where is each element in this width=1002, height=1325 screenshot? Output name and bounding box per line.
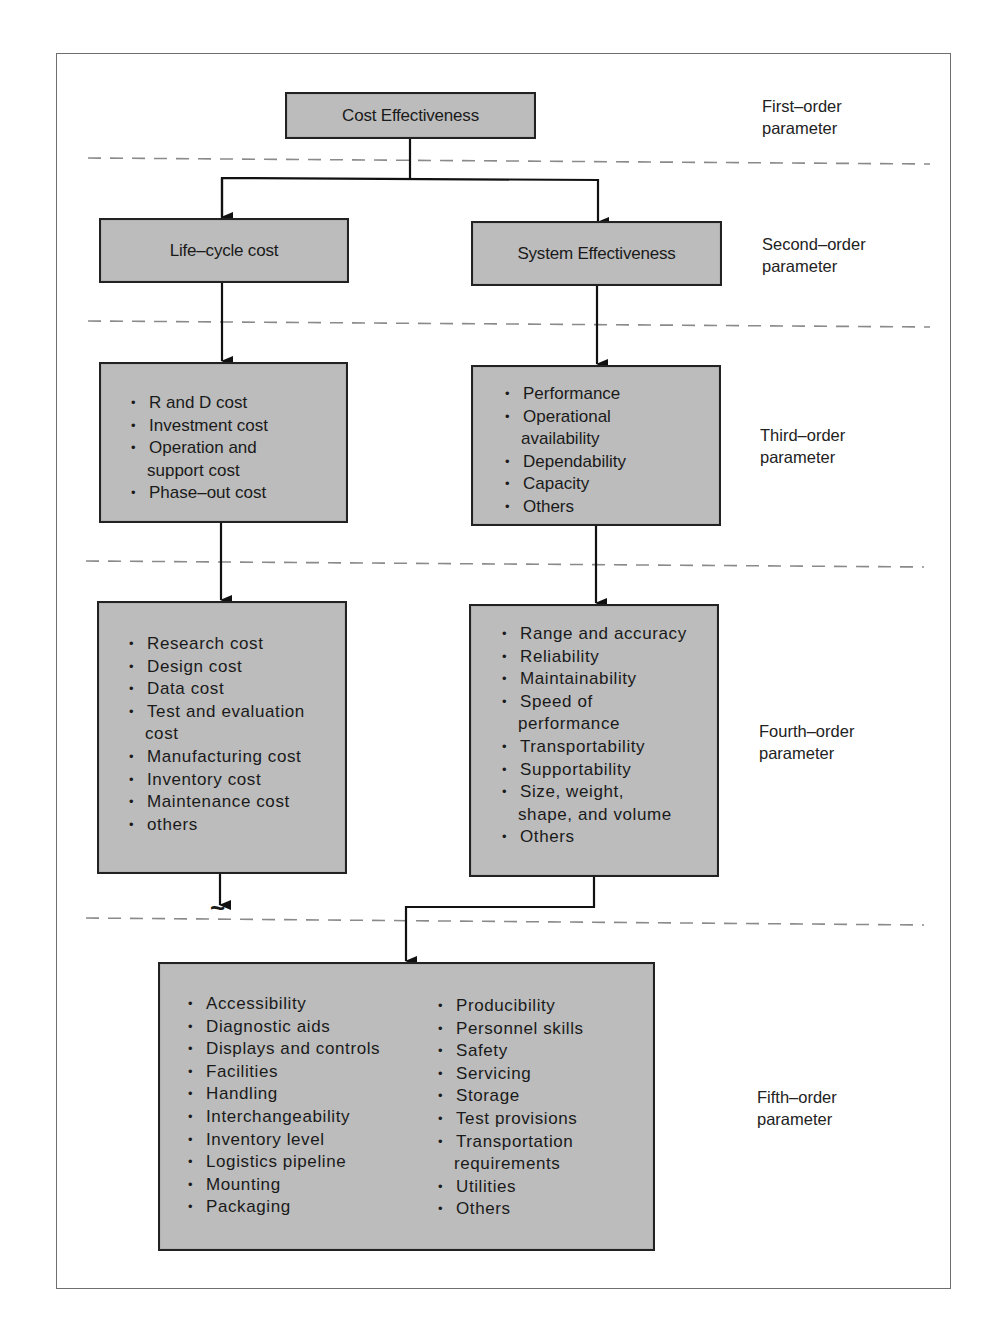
- list-item: Test provisions: [436, 1108, 584, 1131]
- list-item: Safety: [436, 1040, 584, 1063]
- box-third-order-effectiveness: Performance Operational availability Dep…: [471, 365, 721, 526]
- list-item: Design cost: [127, 656, 305, 679]
- box-title: Cost Effectiveness: [342, 106, 479, 126]
- list-item: R and D cost: [129, 392, 268, 415]
- list-item: Performance: [503, 383, 626, 406]
- box-fifth-order: Accessibility Diagnostic aids Displays a…: [158, 962, 655, 1251]
- list-item: Diagnostic aids: [186, 1016, 380, 1039]
- label-line: parameter: [762, 255, 866, 277]
- list-item: Data cost: [127, 678, 305, 701]
- list-item: Accessibility: [186, 993, 380, 1016]
- list-item: Facilities: [186, 1061, 380, 1084]
- list-item: Storage: [436, 1085, 584, 1108]
- list-item: Others: [436, 1198, 584, 1221]
- list-item: Transportation: [436, 1131, 584, 1154]
- list-item: Mounting: [186, 1174, 380, 1197]
- list-item-continued: shape, and volume: [500, 804, 687, 827]
- label-line: parameter: [760, 446, 845, 468]
- list-item: Personnel skills: [436, 1018, 584, 1041]
- list-item: Capacity: [503, 473, 626, 496]
- list-item-continued: availability: [503, 428, 626, 451]
- box-fourth-order-effectiveness: Range and accuracy Reliability Maintaina…: [469, 604, 719, 877]
- label-line: parameter: [759, 742, 854, 764]
- list-item: Logistics pipeline: [186, 1151, 380, 1174]
- box-title: Life–cycle cost: [170, 241, 279, 261]
- list-item: Others: [500, 826, 687, 849]
- list-item: Operational: [503, 406, 626, 429]
- box-title: System Effectiveness: [517, 244, 675, 264]
- list-item: Producibility: [436, 995, 584, 1018]
- list-item: Manufacturing cost: [127, 746, 305, 769]
- level-label-first: First–order parameter: [762, 95, 842, 139]
- bullet-list: Research cost Design cost Data cost Test…: [127, 633, 305, 836]
- list-item: Handling: [186, 1083, 380, 1106]
- label-line: Fifth–order: [757, 1086, 837, 1108]
- box-system-effectiveness: System Effectiveness: [471, 221, 722, 286]
- list-item-continued: cost: [127, 723, 305, 746]
- continuation-tilde: ~: [210, 895, 225, 921]
- list-item: Packaging: [186, 1196, 380, 1219]
- level-label-fourth: Fourth–order parameter: [759, 720, 854, 764]
- bullet-list: R and D cost Investment cost Operation a…: [129, 392, 268, 505]
- list-item: Displays and controls: [186, 1038, 380, 1061]
- list-item: Transportability: [500, 736, 687, 759]
- label-line: Third–order: [760, 424, 845, 446]
- bullet-list-col2: Producibility Personnel skills Safety Se…: [436, 995, 584, 1221]
- list-item: others: [127, 814, 305, 837]
- label-line: Second–order: [762, 233, 866, 255]
- bullet-list-col1: Accessibility Diagnostic aids Displays a…: [186, 993, 380, 1219]
- list-item: Investment cost: [129, 415, 268, 438]
- bullet-list: Range and accuracy Reliability Maintaina…: [500, 623, 687, 849]
- list-item: Phase–out cost: [129, 482, 268, 505]
- list-item: Operation and: [129, 437, 268, 460]
- list-item: Dependability: [503, 451, 626, 474]
- list-item: Supportability: [500, 759, 687, 782]
- list-item: Test and evaluation: [127, 701, 305, 724]
- list-item-continued: support cost: [129, 460, 268, 483]
- list-item: Inventory level: [186, 1129, 380, 1152]
- list-item: Servicing: [436, 1063, 584, 1086]
- list-item: Inventory cost: [127, 769, 305, 792]
- label-line: Fourth–order: [759, 720, 854, 742]
- list-item: Maintenance cost: [127, 791, 305, 814]
- bullet-list: Performance Operational availability Dep…: [503, 383, 626, 519]
- list-item: Interchangeability: [186, 1106, 380, 1129]
- list-item: Research cost: [127, 633, 305, 656]
- list-item-continued: requirements: [436, 1153, 584, 1176]
- list-item: Utilities: [436, 1176, 584, 1199]
- level-label-second: Second–order parameter: [762, 233, 866, 277]
- level-label-third: Third–order parameter: [760, 424, 845, 468]
- list-item: Speed of: [500, 691, 687, 714]
- label-line: parameter: [757, 1108, 837, 1130]
- box-fourth-order-costs: Research cost Design cost Data cost Test…: [97, 601, 347, 874]
- label-line: parameter: [762, 117, 842, 139]
- label-line: First–order: [762, 95, 842, 117]
- list-item: Reliability: [500, 646, 687, 669]
- list-item-continued: performance: [500, 713, 687, 736]
- list-item: Range and accuracy: [500, 623, 687, 646]
- box-third-order-costs: R and D cost Investment cost Operation a…: [99, 362, 348, 523]
- list-item: Maintainability: [500, 668, 687, 691]
- list-item: Size, weight,: [500, 781, 687, 804]
- box-cost-effectiveness: Cost Effectiveness: [285, 92, 536, 139]
- box-life-cycle-cost: Life–cycle cost: [99, 218, 349, 283]
- list-item: Others: [503, 496, 626, 519]
- level-label-fifth: Fifth–order parameter: [757, 1086, 837, 1130]
